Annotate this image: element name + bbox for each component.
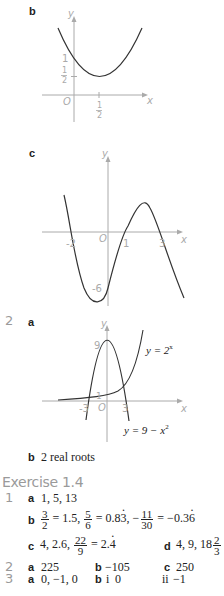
part-c-graph: y x O -2 1 3 -6	[0, 140, 224, 310]
svg-text:3: 3	[159, 238, 165, 249]
svg-text:y: y	[100, 318, 108, 329]
q3-number: 3	[5, 571, 13, 586]
svg-text:1: 1	[97, 101, 102, 110]
q3a-answer: 0, −1, 0	[41, 572, 78, 587]
question-2a-graph: y x O 9 1 -3 3	[0, 310, 224, 450]
svg-text:x: x	[180, 234, 187, 245]
exercise-heading: Exercise 1.4	[2, 474, 83, 490]
svg-text:-3: -3	[79, 403, 89, 414]
parabola-curve	[58, 28, 142, 77]
question-2b-answer: 2 real roots	[41, 450, 95, 465]
svg-text:3: 3	[122, 403, 128, 414]
svg-text:1: 1	[96, 391, 102, 401]
curve-label-2x: y = 2x	[146, 343, 173, 356]
q1d-answer: 4, 9, 1823	[176, 535, 222, 556]
q1b-label: b	[28, 514, 35, 526]
question-2b-label: b	[28, 451, 35, 463]
q3b-i-answer: 0	[115, 572, 121, 587]
svg-text:O: O	[98, 402, 106, 413]
svg-text:y: y	[101, 148, 109, 159]
svg-text:O: O	[99, 233, 107, 244]
svg-text:-2: -2	[66, 238, 76, 249]
q1a-label: a	[28, 492, 34, 504]
svg-text:9: 9	[94, 340, 100, 351]
y-tick-1: 1	[62, 53, 68, 64]
part-b-graph: y x O 1 1 2 1 2	[0, 0, 224, 140]
x-axis-label: x	[146, 95, 153, 106]
q1-number: 1	[5, 490, 13, 505]
q3b-label: b	[95, 573, 102, 585]
q3b-ii-answer: −1	[173, 572, 186, 587]
svg-text:2: 2	[62, 76, 67, 85]
origin-label: O	[63, 96, 71, 107]
svg-text:1: 1	[62, 66, 67, 75]
q1c-label: c	[28, 540, 34, 552]
q2a-label: a	[28, 561, 34, 573]
svg-text:x: x	[180, 403, 187, 414]
q3a-label: a	[28, 573, 34, 585]
curve-label-9-minus-x2: y = 9 − x2	[124, 423, 169, 436]
q1c-answer: 4, 2.6, 229 = 2.4	[40, 535, 116, 556]
q1d-label: d	[164, 540, 171, 552]
q1a-answer: 1, 5, 13	[41, 491, 77, 506]
y-axis-label: y	[67, 8, 75, 19]
svg-text:-6: -6	[92, 283, 102, 294]
svg-text:2: 2	[97, 111, 102, 120]
q3b-ii-label: ii	[162, 572, 169, 587]
q2b-label: b	[95, 561, 102, 573]
q3b-i-label: i	[106, 572, 109, 587]
q1b-answer: 32 = 1.5, 56 = 0.83, −1130 = −0.36	[40, 509, 195, 530]
svg-text:1: 1	[123, 238, 129, 249]
exponential-curve	[58, 330, 143, 400]
